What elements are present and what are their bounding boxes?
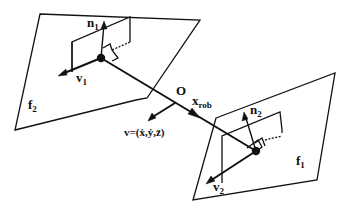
label-velocity: v=(ẋ,ẏ,z̈) <box>124 127 164 138</box>
plane-f2 <box>15 14 200 130</box>
v2-vector <box>210 151 256 181</box>
label-n2: n2 <box>250 103 262 119</box>
label-xrob: xrob <box>192 94 212 110</box>
n1-arrowhead-icon <box>101 21 107 29</box>
velocity-arrowhead-icon <box>148 113 156 121</box>
label-f1: f1 <box>296 154 305 170</box>
frame-1 <box>72 17 130 72</box>
label-v1: v1 <box>76 71 87 87</box>
contact-point-1 <box>98 55 104 61</box>
label-v2: v2 <box>213 180 224 196</box>
velocity-vector <box>151 103 175 118</box>
label-f2: f2 <box>28 98 37 114</box>
contact-point-2 <box>253 148 259 154</box>
label-n1: n1 <box>87 16 99 32</box>
v1-arrowhead-icon <box>58 69 67 76</box>
diagram-svg <box>0 0 345 221</box>
diagram-canvas: n1 v1 f2 O xrob v=(ẋ,ẏ,z̈) n2 v2 f1 <box>0 0 345 221</box>
label-origin: O <box>176 84 186 97</box>
